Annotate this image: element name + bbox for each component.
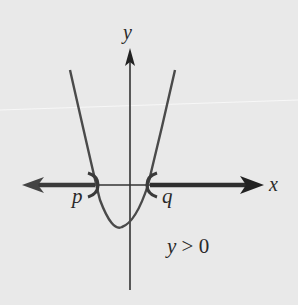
parabola-curve — [70, 70, 175, 228]
inequality-condition: y > 0 — [167, 236, 209, 257]
condition-variable: y — [167, 234, 176, 258]
scan-artifact — [0, 100, 298, 110]
graph-canvas — [0, 0, 298, 305]
root-q-label: q — [162, 186, 173, 207]
diagram: y x p q y > 0 — [0, 0, 298, 305]
condition-value: 0 — [199, 234, 210, 258]
condition-operator: > — [182, 234, 194, 258]
root-p-label: p — [72, 186, 83, 207]
y-axis-label: y — [123, 22, 132, 42]
x-axis-label: x — [269, 174, 278, 194]
